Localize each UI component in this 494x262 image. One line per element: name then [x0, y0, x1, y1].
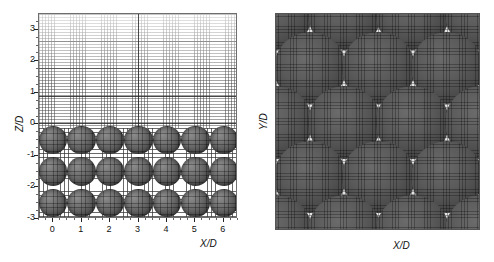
- left-y-tick-label: -1: [21, 149, 35, 159]
- fluid-region-midline: [138, 14, 139, 128]
- right-panel-top-view: X/D Y/D: [250, 0, 494, 262]
- left-x-minor-tick: [152, 218, 153, 220]
- left-y-minor-tick: [36, 147, 38, 148]
- left-y-minor-tick: [36, 171, 38, 172]
- left-panel-side-view: 3210-1-2-3 0123456 X/D Z/D: [0, 0, 250, 262]
- left-y-minor-tick: [36, 52, 38, 53]
- left-y-minor-tick: [36, 194, 38, 195]
- left-x-minor-tick: [123, 218, 124, 220]
- left-y-tick-label: 2: [21, 54, 35, 64]
- left-x-tick: [223, 218, 224, 222]
- left-x-minor-tick: [230, 218, 231, 220]
- left-x-minor-tick: [173, 218, 174, 220]
- left-x-tick-label: 1: [74, 224, 88, 234]
- left-y-minor-tick: [36, 108, 38, 109]
- left-x-minor-tick: [180, 218, 181, 220]
- left-y-minor-tick: [36, 100, 38, 101]
- left-x-minor-tick: [209, 218, 210, 220]
- left-x-minor-tick: [145, 218, 146, 220]
- left-x-minor-tick: [116, 218, 117, 220]
- sphere: [210, 126, 237, 154]
- left-x-minor-tick: [95, 218, 96, 220]
- sphere: [124, 157, 152, 185]
- left-y-axis-title: Z/D: [14, 116, 25, 132]
- left-x-minor-tick: [88, 218, 89, 220]
- sphere: [39, 157, 67, 185]
- left-x-tick: [194, 218, 195, 222]
- left-x-minor-tick: [59, 218, 60, 220]
- left-x-tick: [52, 218, 53, 222]
- left-x-minor-tick: [66, 218, 67, 220]
- left-x-tick-label: 4: [159, 224, 173, 234]
- left-x-tick-label: 0: [45, 224, 59, 234]
- sphere: [210, 157, 237, 185]
- left-y-minor-tick: [36, 163, 38, 164]
- left-y-tick-label: 1: [21, 86, 35, 96]
- left-y-minor-tick: [36, 37, 38, 38]
- left-x-minor-tick: [45, 218, 46, 220]
- left-x-tick-label: 3: [131, 224, 145, 234]
- sphere: [67, 189, 95, 217]
- right-y-axis-title: Y/D: [258, 113, 269, 130]
- right-plot-area: [275, 13, 480, 230]
- left-x-minor-tick: [216, 218, 217, 220]
- left-y-tick-label: -3: [21, 212, 35, 222]
- sphere: [124, 189, 152, 217]
- left-x-minor-tick: [38, 218, 39, 220]
- left-x-axis-title: X/D: [200, 238, 217, 249]
- left-y-minor-tick: [36, 76, 38, 77]
- left-x-minor-tick: [237, 218, 238, 220]
- left-x-tick-label: 2: [102, 224, 116, 234]
- left-x-tick: [81, 218, 82, 222]
- left-x-minor-tick: [187, 218, 188, 220]
- left-x-tick-label: 5: [187, 224, 201, 234]
- sphere: [96, 157, 124, 185]
- left-y-minor-tick: [36, 131, 38, 132]
- sphere: [181, 126, 209, 154]
- left-y-minor-tick: [36, 202, 38, 203]
- left-x-tick: [109, 218, 110, 222]
- left-y-minor-tick: [36, 139, 38, 140]
- left-y-minor-tick: [36, 179, 38, 180]
- left-x-minor-tick: [74, 218, 75, 220]
- left-x-tick: [138, 218, 139, 222]
- left-y-minor-tick: [36, 116, 38, 117]
- left-x-minor-tick: [201, 218, 202, 220]
- left-y-minor-tick: [36, 68, 38, 69]
- figure-root: 3210-1-2-3 0123456 X/D Z/D X/D Y/D: [0, 0, 494, 262]
- sphere: [181, 189, 209, 217]
- left-y-minor-tick: [36, 45, 38, 46]
- left-x-minor-tick: [130, 218, 131, 220]
- left-y-minor-tick: [36, 84, 38, 85]
- sphere: [67, 126, 95, 154]
- left-y-tick-label: 3: [21, 23, 35, 33]
- left-x-tick: [166, 218, 167, 222]
- left-x-minor-tick: [159, 218, 160, 220]
- sphere: [210, 189, 237, 217]
- left-x-minor-tick: [102, 218, 103, 220]
- left-x-tick-label: 6: [216, 224, 230, 234]
- sphere: [153, 157, 181, 185]
- left-y-minor-tick: [36, 210, 38, 211]
- left-y-minor-tick: [36, 21, 38, 22]
- sphere: [67, 157, 95, 185]
- sphere: [124, 126, 152, 154]
- sphere: [181, 157, 209, 185]
- left-y-tick-label: -2: [21, 180, 35, 190]
- right-x-axis-title: X/D: [393, 240, 410, 251]
- left-plot-area: [38, 13, 237, 218]
